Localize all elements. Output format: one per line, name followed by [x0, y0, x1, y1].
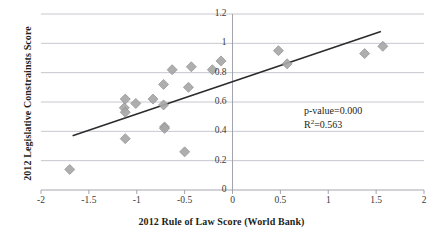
y-axis-title: 2012 Legislative Constrainsts Score — [22, 19, 33, 189]
x-tick-label-5: 0.5 — [260, 195, 300, 205]
r-squared-value: =0.563 — [314, 119, 342, 130]
y-tick-label-2: 0.4 — [197, 125, 227, 135]
y-tick-label-6: 1.2 — [197, 8, 227, 18]
data-point — [378, 41, 388, 51]
x-axis-title: 2012 Rule of Law Score (World Bank) — [0, 216, 443, 227]
x-tick-label-6: 1 — [308, 195, 348, 205]
data-point — [186, 62, 196, 72]
y-tick-label-5: 1 — [197, 37, 227, 47]
p-value-text: p-value=0.000 — [304, 104, 362, 118]
data-point — [120, 94, 130, 104]
data-point — [131, 98, 141, 108]
data-point — [282, 59, 292, 69]
r-squared-text: R2=0.563 — [304, 118, 362, 132]
data-point — [159, 100, 169, 110]
data-point — [360, 49, 370, 59]
data-point — [183, 82, 193, 92]
data-point — [167, 65, 177, 75]
x-tick-label-3: -0.5 — [165, 195, 205, 205]
data-point — [216, 56, 226, 66]
statistics-annotation: p-value=0.000 R2=0.563 — [304, 104, 362, 131]
r-squared-prefix: R — [304, 119, 311, 130]
x-tick-label-4: 0 — [213, 195, 253, 205]
data-point — [273, 46, 283, 56]
y-tick-label-3: 0.6 — [197, 96, 227, 106]
scatter-chart: 2012 Legislative Constrainsts Score 2012… — [0, 0, 443, 237]
x-tick-label-2: -1 — [117, 195, 157, 205]
y-tick-label-1: 0.2 — [197, 155, 227, 165]
data-point — [180, 147, 190, 157]
y-tick-label-0: 0 — [197, 184, 227, 194]
x-tick-label-0: -2 — [21, 195, 61, 205]
x-tick-label-8: 2 — [404, 195, 443, 205]
data-point — [65, 164, 75, 174]
data-point — [148, 94, 158, 104]
x-tick-label-7: 1.5 — [356, 195, 396, 205]
data-point — [159, 79, 169, 89]
data-point — [120, 134, 130, 144]
y-tick-label-4: 0.8 — [197, 67, 227, 77]
x-tick-label-1: -1.5 — [69, 195, 109, 205]
